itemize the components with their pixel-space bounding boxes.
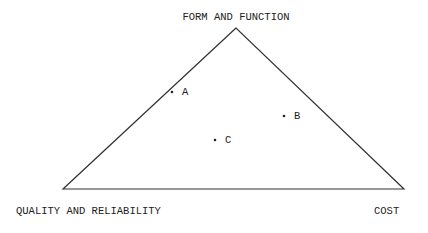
vertex-label-bottom-left: QUALITY AND RELIABILITY (16, 205, 162, 217)
vertex-label-bottom-right: COST (374, 205, 399, 217)
point-b-label: B (294, 110, 300, 122)
vertex-label-top: FORM AND FUNCTION (182, 11, 289, 23)
point-c-label: C (225, 134, 231, 146)
point-b-marker (283, 115, 286, 118)
point-a-marker (171, 91, 174, 94)
triangle-outline (63, 28, 404, 189)
point-a-label: A (182, 86, 189, 98)
triangle-diagram: FORM AND FUNCTION QUALITY AND RELIABILIT… (0, 0, 428, 233)
point-c-marker (214, 139, 217, 142)
